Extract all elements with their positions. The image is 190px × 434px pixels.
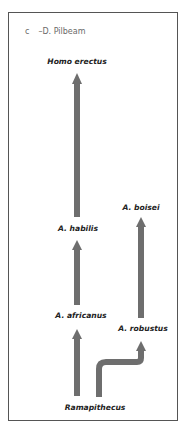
lineage-arrows bbox=[0, 0, 190, 434]
arrow-robustus-to-boisei bbox=[136, 217, 146, 318]
arrow-ramapithecus-to-robustus bbox=[99, 341, 146, 397]
arrow-habilis-to-erectus bbox=[72, 73, 82, 217]
arrow-africanus-to-habilis bbox=[72, 240, 82, 305]
arrow-ramapithecus-to-africanus bbox=[72, 329, 82, 396]
